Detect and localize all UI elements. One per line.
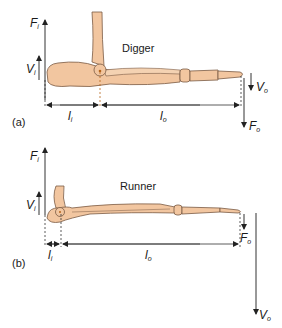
lever-in-label: li xyxy=(48,249,52,262)
panel-b-runner xyxy=(39,148,256,314)
pivot-point xyxy=(99,70,102,73)
metacarpal-bone xyxy=(190,70,218,81)
force-in-label: Fi xyxy=(30,17,39,30)
velocity-out-label: Vo xyxy=(259,309,271,322)
metacarpal-bone xyxy=(182,207,220,214)
forearm-bone xyxy=(47,204,175,223)
force-in-label: Fi xyxy=(30,150,39,163)
panel-title-digger: Digger xyxy=(122,43,154,54)
force-out-label: Fo xyxy=(240,232,251,245)
velocity-in-label: Vi xyxy=(26,199,36,212)
carpal-bone xyxy=(174,205,182,215)
panel-tag-b: (b) xyxy=(12,258,25,269)
velocity-in-label: Vi xyxy=(26,63,36,76)
lever-in-label: li xyxy=(68,110,72,123)
velocity-out-label: Vo xyxy=(256,81,268,94)
phalanx-bone xyxy=(220,208,241,213)
humerus-bone xyxy=(54,186,66,210)
lever-out-label: lo xyxy=(160,110,167,123)
panel-tag-a: (a) xyxy=(12,117,25,128)
phalanx-bone xyxy=(218,71,243,79)
carpal-bone xyxy=(180,69,190,82)
humerus-bone xyxy=(92,12,104,66)
panel-title-runner: Runner xyxy=(120,181,156,192)
lever-out-label: lo xyxy=(145,249,152,262)
pivot-point xyxy=(59,211,61,213)
force-out-label: Fo xyxy=(249,120,260,133)
